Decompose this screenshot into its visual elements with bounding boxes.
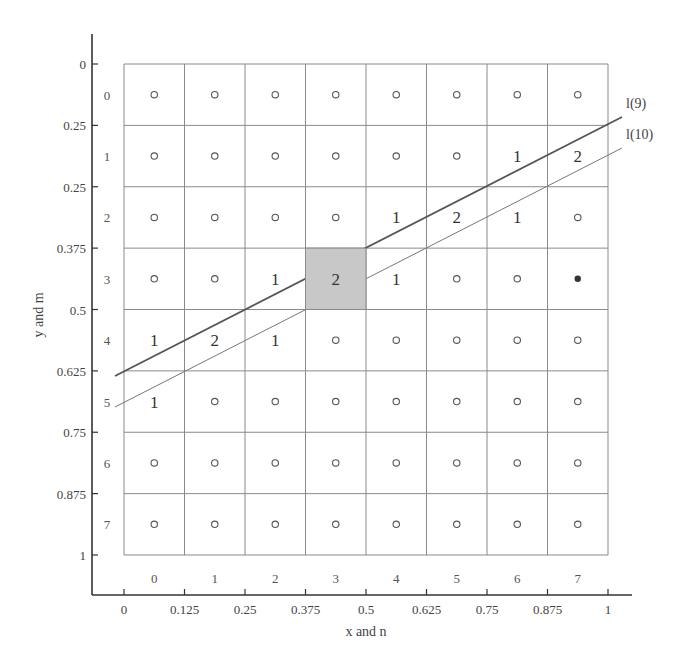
line-label-l9: l(9) [626,96,647,112]
empty-marker-icon [514,337,520,343]
empty-marker-icon [575,521,581,527]
y-tick-label: 0.625 [57,364,86,379]
empty-marker-icon [575,91,581,97]
column-index-label: 3 [333,571,340,586]
empty-marker-icon [212,91,218,97]
cell-count: 2 [211,331,220,350]
empty-marker-icon [272,91,278,97]
y-tick-label: 0.5 [70,303,86,318]
empty-marker-icon [454,337,460,343]
empty-marker-icon [393,521,399,527]
empty-marker-icon [454,460,460,466]
x-tick-label: 0.375 [291,602,320,617]
empty-marker-icon [272,398,278,404]
cell-count: 2 [453,208,462,227]
cell-count: 1 [513,208,522,227]
cell-count: 2 [574,147,583,166]
empty-marker-icon [514,521,520,527]
empty-marker-icon [212,398,218,404]
x-axis-label: x and n [345,624,386,639]
y-axis-label: y and m [31,292,46,337]
x-tick-label: 0.75 [476,602,499,617]
empty-marker-icon [272,460,278,466]
y-tick-label: 1 [80,548,87,563]
y-tick-label: 0.75 [63,425,86,440]
empty-marker-icon [151,276,157,282]
empty-marker-icon [272,153,278,159]
line-l9 [115,117,622,376]
y-tick-label: 0 [80,57,87,72]
empty-marker-icon [333,460,339,466]
cell-count: 1 [271,331,280,350]
empty-marker-icon [514,276,520,282]
empty-marker-icon [393,91,399,97]
empty-marker-icon [514,398,520,404]
axes [92,34,632,595]
cell-count: 1 [150,393,159,412]
empty-marker-icon [514,460,520,466]
empty-marker-icon [212,521,218,527]
empty-marker-icon [333,91,339,97]
empty-marker-icon [151,460,157,466]
column-index-label: 4 [393,571,400,586]
row-index-label: 4 [104,333,111,348]
intersecting-lines [115,117,622,407]
row-index-label: 0 [104,88,111,103]
empty-marker-icon [393,398,399,404]
column-index-label: 2 [272,571,279,586]
cell-count: 1 [392,270,401,289]
empty-marker-icon [151,91,157,97]
empty-marker-icon [333,521,339,527]
empty-marker-icon [575,214,581,220]
column-index-label: 0 [151,571,158,586]
empty-marker-icon [212,276,218,282]
empty-marker-icon [575,337,581,343]
cell-count: 1 [392,208,401,227]
row-index-label: 2 [104,210,111,225]
empty-marker-icon [575,460,581,466]
x-tick-label: 0.5 [358,602,374,617]
empty-marker-icon [454,398,460,404]
y-tick-label: 0.875 [57,487,86,502]
empty-marker-icon [393,337,399,343]
empty-marker-icon [333,398,339,404]
empty-marker-icon [454,521,460,527]
empty-marker-icon [514,91,520,97]
cell-count: 2 [332,270,341,289]
empty-marker-icon [212,460,218,466]
y-tick-label: 0.25 [63,118,86,133]
row-index-label: 6 [104,456,111,471]
empty-marker-icon [151,153,157,159]
empty-marker-icon [575,398,581,404]
row-index-label: 1 [104,149,111,164]
row-index-label: 5 [104,395,111,410]
empty-marker-icon [454,276,460,282]
y-tick-label: 0.25 [63,180,86,195]
x-tick-label: 0.25 [234,602,257,617]
empty-marker-icon [272,214,278,220]
x-tick-label: 0.125 [170,602,199,617]
empty-marker-icon [212,214,218,220]
empty-marker-icon [333,337,339,343]
empty-marker-icon [151,521,157,527]
empty-marker-icon [333,153,339,159]
cell-count: 1 [150,331,159,350]
empty-marker-icon [212,153,218,159]
filled-marker-icon [575,276,581,282]
column-index-label: 5 [454,571,461,586]
line-label-l10: l(10) [626,127,654,143]
grid-diagram: 121211211211 00.250.250.3750.50.6250.750… [0,0,688,662]
x-tick-label: 0 [121,602,128,617]
empty-marker-icon [151,214,157,220]
column-index-label: 1 [212,571,219,586]
empty-marker-icon [393,153,399,159]
x-tick-label: 0.875 [533,602,562,617]
column-index-label: 7 [575,571,582,586]
empty-marker-icon [454,153,460,159]
empty-marker-icon [454,91,460,97]
row-index-label: 3 [104,272,111,287]
empty-marker-icon [272,521,278,527]
x-tick-label: 1 [605,602,612,617]
empty-marker-icon [393,460,399,466]
empty-marker-icon [333,214,339,220]
